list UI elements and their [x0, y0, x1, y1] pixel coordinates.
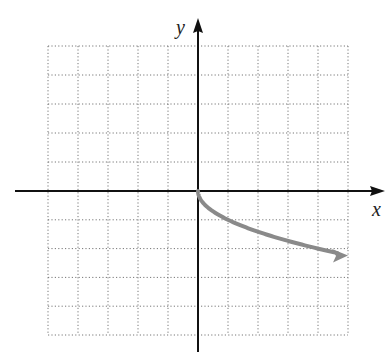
curve-y-neg-sqrt-x — [198, 191, 348, 263]
curve-arrow-icon — [332, 249, 348, 263]
x-axis-label: x — [371, 198, 381, 220]
graph: x y — [0, 0, 390, 352]
y-axis-arrow-icon — [193, 18, 203, 33]
y-axis — [193, 18, 203, 352]
y-axis-label: y — [174, 16, 185, 39]
x-axis-arrow-icon — [370, 186, 385, 196]
